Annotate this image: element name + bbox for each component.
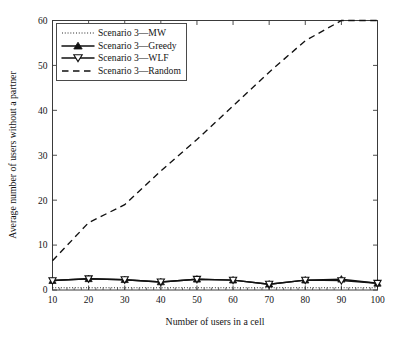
legend-sample-random: [61, 65, 95, 77]
x-tick-label: 70: [264, 295, 274, 305]
y-tick-label: 30: [38, 151, 48, 161]
y-axis-title: Average number of users without a partne…: [7, 71, 18, 239]
legend-sample-wlf: [61, 52, 95, 64]
legend-label-wlf: Scenario 3—WLF: [98, 52, 169, 64]
y-tick-label: 60: [38, 16, 48, 26]
x-tick-label: 30: [120, 295, 130, 305]
x-tick-label: 40: [156, 295, 166, 305]
y-tick-label: 0: [43, 285, 48, 295]
x-tick-label: 80: [301, 295, 311, 305]
y-tick-label: 50: [38, 61, 48, 71]
x-tick-label: 20: [84, 295, 94, 305]
x-tick-label: 50: [192, 295, 202, 305]
x-axis-title: Number of users in a cell: [166, 316, 265, 327]
legend-item-random[interactable]: Scenario 3—Random: [61, 65, 181, 78]
legend-sample-greedy: [61, 40, 95, 52]
x-tick-label: 100: [370, 295, 385, 305]
x-tick-label: 10: [48, 295, 58, 305]
legend-label-mw: Scenario 3—MW: [98, 27, 166, 39]
x-tick-label: 90: [337, 295, 347, 305]
y-tick-label: 10: [38, 240, 48, 250]
legend-item-greedy[interactable]: Scenario 3—Greedy: [61, 40, 181, 53]
legend-item-wlf[interactable]: Scenario 3—WLF: [61, 52, 181, 65]
y-axis-tick-labels: 0102030405060: [38, 16, 48, 296]
x-axis-tick-labels: 102030405060708090100: [48, 295, 385, 305]
x-tick-label: 60: [228, 295, 238, 305]
legend-sample-mw: [61, 27, 95, 39]
series-2: [49, 276, 381, 288]
y-tick-label: 40: [38, 106, 48, 116]
y-tick-label: 20: [38, 196, 48, 206]
chart-figure: 102030405060708090100 0102030405060 Numb…: [0, 0, 404, 339]
legend: Scenario 3—MW Scenario 3—Greedy Scenario…: [56, 23, 187, 81]
legend-label-random: Scenario 3—Random: [98, 65, 181, 77]
legend-label-greedy: Scenario 3—Greedy: [98, 40, 177, 52]
legend-item-mw[interactable]: Scenario 3—MW: [61, 27, 181, 40]
